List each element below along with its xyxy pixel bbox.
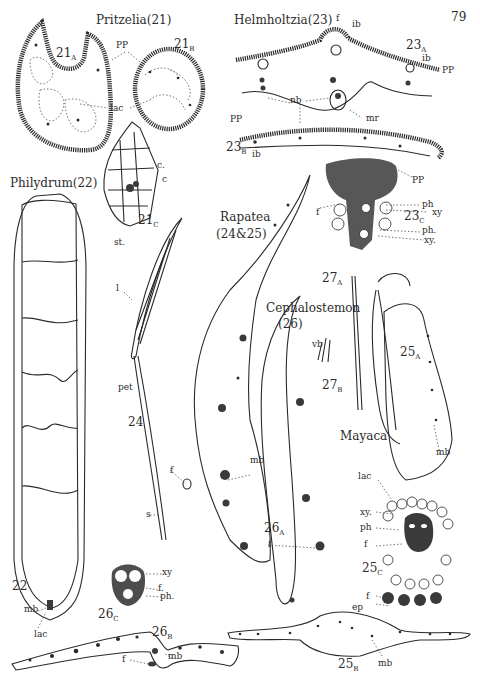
label-ep: ep [352, 603, 363, 612]
label-xy-23c-1: xy [432, 208, 442, 217]
fig-26c-label: 26C [98, 608, 119, 620]
label-ib-23-right: ib [422, 54, 431, 63]
drawing-25c [382, 497, 453, 606]
drawing-23c [326, 158, 398, 250]
label-f-23: f [336, 14, 339, 23]
fig-22-label: 22 [12, 580, 27, 592]
fig-number: 23 [404, 209, 419, 223]
fig-25a-label: 25A [400, 346, 420, 358]
label-xy-23c-2: xy. [424, 236, 436, 245]
label-f-23c: f [316, 208, 319, 217]
label-s: s [146, 510, 151, 519]
fig-sub: A [415, 353, 420, 361]
rapatea-subtitle: (24&25) [216, 228, 267, 240]
cephalostemon-subtitle: (26) [278, 318, 303, 330]
label-ph-25c: ph [360, 523, 372, 532]
fig-number: 26 [152, 625, 167, 639]
drawing-21b [135, 49, 203, 129]
label-f2-25c: f [366, 592, 369, 601]
label-ph-26c: ph. [160, 592, 174, 601]
fig-number: 23 [406, 38, 421, 52]
fig-number: 27 [322, 378, 337, 392]
fig-sub: B [337, 386, 342, 394]
pritzelia-title: Pritzelia(21) [96, 14, 171, 26]
fig-sub: A [71, 54, 76, 62]
fig-27b-label: 27B [322, 379, 342, 391]
fig-sub: C [113, 615, 118, 623]
fig-number: 23 [226, 140, 241, 154]
fig-27a-label: 27A [322, 272, 342, 284]
fig-number: 27 [322, 271, 337, 285]
plate-drawings [0, 0, 480, 680]
label-mb-26: mb [250, 456, 264, 465]
label-pet: pet [118, 383, 133, 392]
botanical-plate: 79 Pritzelia(21) 21A 21B 21C PP lac c. c… [0, 0, 480, 680]
label-ph-23c-2: ph. [422, 226, 436, 235]
leader-pp-21 [112, 52, 140, 62]
label-ib-23-bottom: ib [252, 150, 261, 159]
label-l: l [116, 284, 119, 293]
label-pp-23-left: PP [230, 115, 242, 124]
label-mb-25: mb [436, 448, 450, 457]
fig-24-label: 24 [128, 416, 143, 428]
fig-26a-label: 26A [264, 522, 284, 534]
fig-sub: C [377, 569, 382, 577]
fig-sub: A [337, 279, 342, 287]
label-f-26a: f [268, 540, 271, 549]
drawing-25b [228, 612, 470, 656]
label-mr: mr [366, 114, 379, 123]
fig-sub: B [241, 148, 246, 156]
label-f-25c: f [364, 540, 367, 549]
fig-21c-label: 21C [138, 214, 159, 226]
label-pp-23c: PP [412, 176, 424, 185]
drawing-22 [14, 194, 86, 620]
label-mb-26b: mb [168, 652, 182, 661]
label-vb: vb [312, 340, 323, 349]
label-xy-26c: xy [162, 568, 172, 577]
leader-mr [350, 110, 362, 118]
label-f-26-left: f [170, 466, 173, 475]
cephalostemon-title: Cephalostemon [266, 302, 360, 314]
helmholtzia-title: Helmholtzia(23) [234, 14, 332, 26]
fig-21a-label: 21A [56, 47, 76, 59]
rapatea-title: Rapatea [220, 211, 270, 223]
fig-23a-label: 23A [406, 39, 426, 51]
fig-sub: B [353, 665, 358, 673]
label-c2: c [162, 175, 167, 184]
fig-number: 21 [138, 213, 153, 227]
fig-sub: C [419, 217, 424, 225]
fig-26b-label: 26B [152, 626, 172, 638]
philydrum-title: Philydrum(22) [10, 177, 97, 189]
label-xy-25c: xy. [360, 508, 372, 517]
fig-sub: C [153, 221, 158, 229]
drawing-23-midrib [242, 82, 432, 110]
fig-number: 21 [56, 46, 71, 60]
page-number: 79 [451, 11, 466, 23]
fig-sub: A [279, 529, 284, 537]
fig-25c-label: 25C [362, 562, 383, 574]
fig-number: 25 [338, 657, 353, 671]
fig-number: 26 [264, 521, 279, 535]
label-f-26b: f [122, 655, 125, 664]
fig-number: 26 [98, 607, 113, 621]
label-pp-23-right: PP [442, 66, 454, 75]
fig-21b-label: 21B [174, 38, 194, 50]
fig-25b-label: 25B [338, 658, 358, 670]
fig-number: 21 [174, 37, 189, 51]
fig-sub: B [167, 633, 172, 641]
drawing-21c [104, 122, 158, 226]
label-lac-21: lac [110, 104, 123, 113]
drawing-24 [131, 218, 182, 540]
drawing-26c [112, 565, 145, 607]
fig-sub: B [189, 45, 194, 53]
fig-23c-label: 23C [404, 210, 425, 222]
drawing-23b [240, 130, 442, 158]
fig-number: 25 [400, 345, 415, 359]
label-pp-21: PP [116, 41, 128, 50]
label-lac-22: lac [34, 630, 47, 639]
drawing-21a [18, 22, 111, 150]
mayaca-title: Mayaca [340, 430, 387, 442]
label-mb-25b: mb [378, 659, 392, 668]
label-st: st. [114, 238, 125, 247]
label-lac-25: lac [358, 472, 371, 481]
